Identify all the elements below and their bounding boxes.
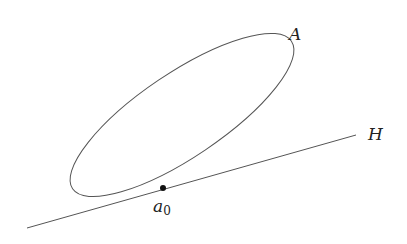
label-a0-sub: 0 [163, 204, 171, 218]
label-a0: a0 [153, 196, 171, 218]
diagram-canvas: A H a0 [0, 0, 407, 244]
label-a0-main: a [153, 196, 163, 216]
point-a0 [160, 185, 166, 191]
tangent-line-h [27, 135, 356, 228]
label-h: H [367, 124, 384, 144]
curve-a [49, 6, 315, 223]
label-a: A [287, 24, 301, 44]
